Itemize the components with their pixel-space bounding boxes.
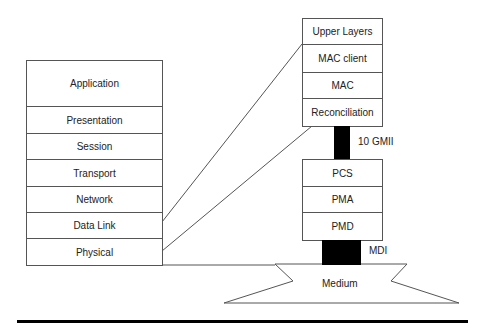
osi-layer-network: Network	[26, 186, 163, 213]
osi-layer-transport: Transport	[26, 159, 163, 187]
eth-layer-mac: MAC	[302, 72, 383, 99]
eth-layer-pmd: PMD	[302, 212, 383, 241]
medium-label: Medium	[322, 278, 358, 289]
eth-layer-pcs: PCS	[302, 159, 383, 187]
mdi-label: MDI	[369, 245, 387, 256]
gmii-interface-bar	[334, 126, 350, 160]
osi-layer-application: Application	[26, 60, 163, 107]
osi-layer-physical: Physical	[26, 238, 163, 266]
eth-layer-mac-client: MAC client	[302, 44, 383, 73]
osi-layer-data-link: Data Link	[26, 212, 163, 239]
eth-layer-pma: PMA	[302, 186, 383, 213]
osi-layer-session: Session	[26, 133, 163, 160]
eth-layer-upper-layers: Upper Layers	[302, 18, 383, 45]
mdi-interface-bar	[322, 240, 361, 265]
bottom-rule	[17, 320, 468, 323]
eth-layer-reconciliation: Reconciliation	[302, 98, 383, 127]
gmii-label: 10 GMII	[358, 136, 394, 147]
osi-layer-presentation: Presentation	[26, 106, 163, 134]
